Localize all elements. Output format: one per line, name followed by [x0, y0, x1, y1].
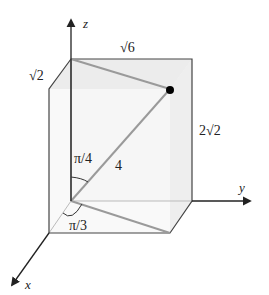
spherical-coordinates-diagram: z y x √2 √6 2√2 4 π/4 π/3 — [0, 0, 269, 295]
phi-angle-label: π/4 — [74, 151, 92, 166]
point-marker — [166, 86, 174, 94]
radius-label: 4 — [115, 158, 122, 173]
width-label: √6 — [120, 40, 135, 55]
depth-label: √2 — [29, 68, 44, 83]
height-label: 2√2 — [199, 123, 221, 138]
z-axis-label: z — [82, 16, 88, 31]
y-axis-label: y — [237, 180, 245, 195]
x-axis-label: x — [24, 277, 31, 292]
box-right-face — [170, 59, 192, 233]
theta-angle-label: π/3 — [69, 218, 87, 233]
